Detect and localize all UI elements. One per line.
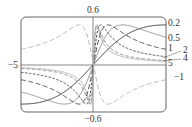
curve-label-5: 5 <box>168 58 173 68</box>
y-tick-bottom: −0.6 <box>84 114 101 124</box>
curve-label-0.5: 0.5 <box>168 33 180 43</box>
chart: 0.20.51245−1 0.6 −0.6 −5 <box>0 0 192 127</box>
y-tick-top: 0.6 <box>87 5 99 15</box>
x-tick-left: −5 <box>8 60 18 70</box>
curves <box>21 25 166 104</box>
curve-label-−1: −1 <box>174 72 184 82</box>
curve-labels: 0.20.51245−1 <box>163 18 188 82</box>
curve-label-0.2: 0.2 <box>168 18 180 28</box>
curve-label-1: 1 <box>168 43 173 53</box>
curve-label-4: 4 <box>183 53 188 63</box>
curve-c-−1 <box>21 25 166 104</box>
